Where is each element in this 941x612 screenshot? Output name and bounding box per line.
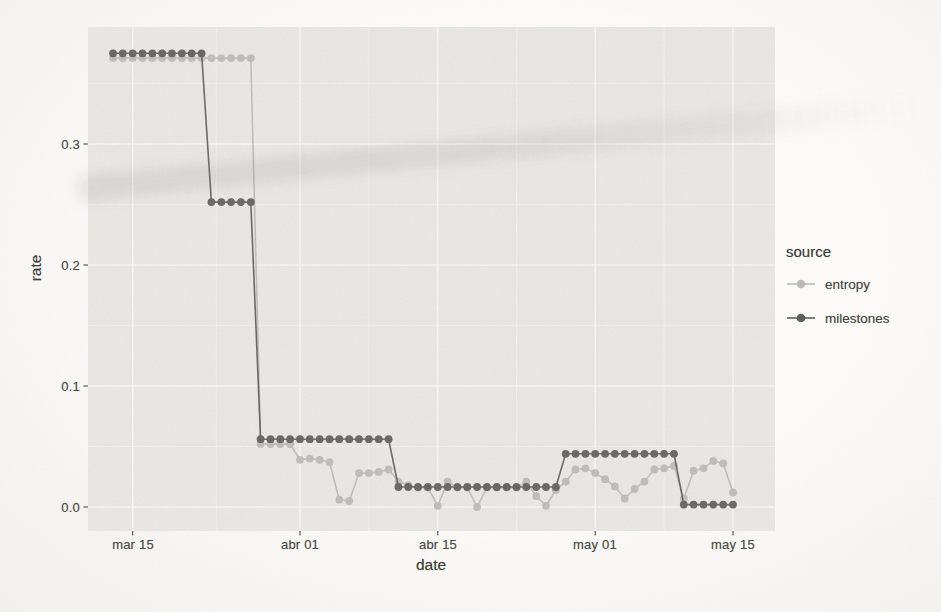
panel-grain-overlay bbox=[88, 27, 775, 531]
y-tick-label: 0.0 bbox=[38, 500, 80, 515]
legend-title: source bbox=[786, 243, 936, 260]
entropy-key-icon bbox=[786, 276, 816, 292]
y-tick-label: 0.1 bbox=[38, 379, 80, 394]
x-tick-label: may 01 bbox=[573, 537, 617, 552]
ggplot-figure: 0.0 0.1 0.2 0.3 mar 15 abr 01 abr 15 may… bbox=[0, 0, 941, 612]
legend-label-entropy: entropy bbox=[825, 277, 870, 292]
legend-entry-milestones: milestones bbox=[786, 307, 936, 329]
milestones-key-icon bbox=[786, 310, 816, 326]
x-axis-title: date bbox=[416, 556, 446, 574]
x-tick-label: abr 15 bbox=[419, 537, 457, 552]
y-axis-title: rate bbox=[27, 255, 45, 282]
legend-entry-entropy: entropy bbox=[786, 273, 936, 295]
x-tick-label: mar 15 bbox=[112, 537, 154, 552]
x-tick-label: may 15 bbox=[711, 537, 755, 552]
y-tick-label: 0.3 bbox=[38, 137, 80, 152]
legend-label-milestones: milestones bbox=[825, 311, 890, 326]
x-tick-label: abr 01 bbox=[281, 537, 319, 552]
legend: source entropy milestones bbox=[786, 243, 936, 329]
